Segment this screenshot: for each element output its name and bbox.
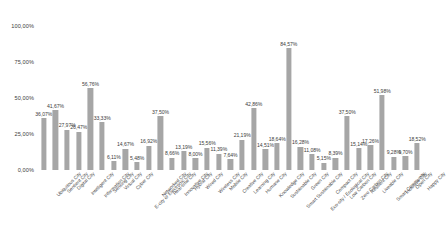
bar-item: 7,64% [225, 20, 237, 170]
bar-item: 8,00% [190, 20, 202, 170]
bar [368, 145, 373, 170]
bar-item: 27,97% [61, 20, 73, 170]
bar-item: 9,28% [388, 20, 400, 170]
bar-item: 13,19% [178, 20, 190, 170]
bar [275, 143, 280, 170]
bar-item: 37,50% [341, 20, 353, 170]
bar [193, 158, 198, 170]
bar-value-label: 6,11% [107, 154, 121, 160]
bar [356, 148, 361, 170]
bar [380, 95, 385, 170]
x-axis: Ubiquitous CitySentient CityDigital City… [38, 171, 423, 242]
bar [391, 157, 396, 170]
bar [403, 156, 408, 170]
bar [146, 146, 151, 170]
bar-item: 84,57% [283, 20, 295, 170]
y-axis-tick-label: 25,00% [14, 131, 34, 137]
bar-item: 11,08% [306, 20, 318, 170]
bar [158, 116, 163, 170]
bar-item: 33,33% [96, 20, 108, 170]
bar [345, 116, 350, 170]
bar-series: 36,07%41,67%27,97%26,47%56,76%33,33%6,11… [38, 20, 423, 170]
y-axis: 0,00%25,00%50,00%75,00%100,00% [0, 20, 36, 170]
bar-item: 37,50% [155, 20, 167, 170]
bar [228, 159, 233, 170]
bar [123, 149, 128, 170]
bar-item: 16,92% [143, 20, 155, 170]
bar [135, 162, 140, 170]
bar [181, 151, 186, 170]
bar [65, 130, 70, 170]
bar-item: 14,67% [120, 20, 132, 170]
bar [100, 122, 105, 170]
bar [251, 108, 256, 170]
bar [321, 163, 326, 170]
bar [240, 140, 245, 171]
bar-item: 26,47% [73, 20, 85, 170]
bar [170, 158, 175, 170]
bar [41, 118, 46, 170]
y-axis-tick-label: 50,00% [14, 95, 34, 101]
bar [53, 110, 58, 170]
bar-value-label: 18,52% [409, 136, 426, 142]
y-axis-tick-label: 75,00% [14, 59, 34, 65]
bar [333, 158, 338, 170]
bar-item: 5,48% [131, 20, 143, 170]
bar [286, 48, 291, 170]
bar-item: 56,76% [85, 20, 97, 170]
bar [76, 132, 81, 170]
bar-item: 17,26% [365, 20, 377, 170]
y-axis-tick-label: 0,00% [18, 167, 34, 173]
bar [88, 88, 93, 170]
bar-item: 6,11% [108, 20, 120, 170]
bar-item: 18,52% [411, 20, 423, 170]
bar-item: 41,67% [50, 20, 62, 170]
bar-item: 14,51% [260, 20, 272, 170]
bar [205, 148, 210, 170]
bar [310, 154, 315, 170]
bar-item: 8,39% [330, 20, 342, 170]
bar-item: 36,07% [38, 20, 50, 170]
bar-item: 5,15% [318, 20, 330, 170]
bar-item: 15,14% [353, 20, 365, 170]
bar-item: 21,19% [236, 20, 248, 170]
bar-item: 51,98% [376, 20, 388, 170]
bar-item: 9,70% [400, 20, 412, 170]
y-axis-tick-label: 100,00% [11, 23, 34, 29]
bar [298, 147, 303, 170]
bar [111, 161, 116, 170]
bar [216, 154, 221, 170]
bar [263, 149, 268, 170]
bar [415, 143, 420, 170]
bar-item: 11,39% [213, 20, 225, 170]
plot-area: 36,07%41,67%27,97%26,47%56,76%33,33%6,11… [38, 20, 423, 170]
